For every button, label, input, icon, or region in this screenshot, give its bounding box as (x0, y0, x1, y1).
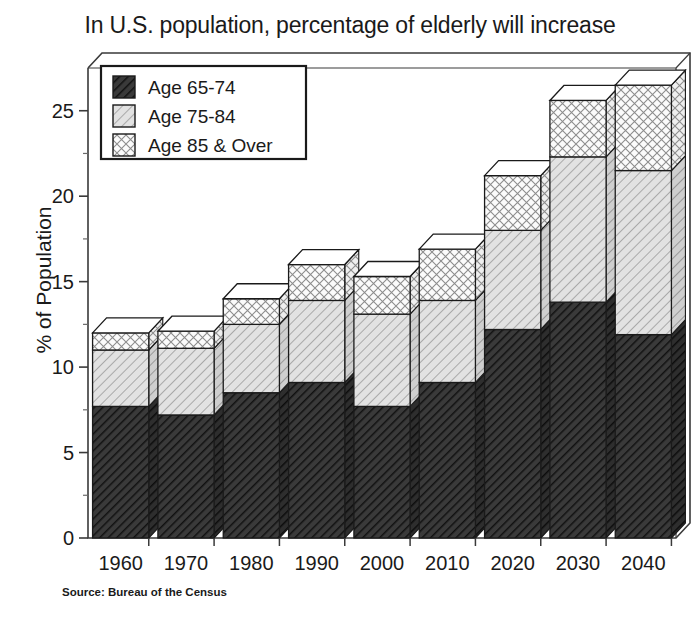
bar-segment (354, 406, 410, 538)
bar-segment (289, 300, 345, 382)
bar-group (419, 234, 489, 538)
bar-segment (485, 329, 541, 538)
source-note: Source: Bureau of the Census (62, 586, 227, 598)
bar-segment (419, 382, 475, 538)
bar-group (158, 316, 228, 538)
bar-segment (223, 324, 279, 392)
bar-segment (93, 333, 149, 350)
x-tick-label: 2040 (621, 552, 666, 574)
y-tick-label: 0 (63, 527, 74, 549)
legend-swatch (113, 76, 135, 98)
bar-group (550, 85, 620, 538)
bar-segment (550, 100, 606, 156)
y-tick-label: 10 (52, 356, 74, 378)
x-tick-label: 2020 (490, 552, 535, 574)
bar-segment (158, 415, 214, 538)
x-axis-ticks: 196019701980199020002010202020302040 (98, 538, 671, 574)
bar-segment (615, 335, 671, 538)
legend-label: Age 75-84 (148, 106, 236, 127)
legend-label: Age 65-74 (148, 77, 236, 98)
bar-segment (485, 230, 541, 329)
bar-segment (93, 350, 149, 406)
bar-segment (354, 277, 410, 315)
bar-segment (615, 171, 671, 335)
y-axis-ticks: 0510152025 (52, 100, 88, 549)
bar-segment (93, 406, 149, 538)
x-tick-label: 2030 (556, 552, 601, 574)
x-tick-label: 1980 (229, 552, 274, 574)
bar-segment (223, 393, 279, 538)
x-tick-label: 2010 (425, 552, 470, 574)
y-tick-label: 5 (63, 442, 74, 464)
chart-figure: In U.S. population, percentage of elderl… (0, 0, 700, 622)
bar-group (93, 318, 163, 538)
bar-group (485, 161, 555, 538)
x-tick-label: 2000 (360, 552, 405, 574)
x-tick-label: 1970 (164, 552, 209, 574)
bar-segment (550, 302, 606, 538)
legend-swatch (113, 105, 135, 127)
plot-area: 0510152025 19601970198019902000201020202… (0, 0, 700, 622)
legend-label: Age 85 & Over (148, 135, 273, 156)
bar-segment (289, 265, 345, 301)
bar-segment (289, 382, 345, 538)
bar-segment (550, 157, 606, 302)
bar-segment (615, 85, 671, 170)
bar-group (615, 70, 685, 538)
y-tick-label: 25 (52, 100, 74, 122)
bar-segment (419, 249, 475, 300)
bar-group (354, 262, 424, 538)
bar-segment (158, 331, 214, 348)
legend-swatch (113, 134, 135, 156)
bar-segment (419, 300, 475, 382)
bar-segment (158, 348, 214, 415)
bar-segment (223, 299, 279, 325)
bar-segment (485, 176, 541, 231)
bar-group (289, 250, 359, 538)
y-tick-label: 20 (52, 185, 74, 207)
x-tick-label: 1990 (294, 552, 339, 574)
bar-group (223, 284, 293, 538)
bar-segment (354, 314, 410, 406)
x-tick-label: 1960 (98, 552, 143, 574)
legend: Age 65-74Age 75-84Age 85 & Over (101, 66, 306, 159)
y-tick-label: 15 (52, 271, 74, 293)
